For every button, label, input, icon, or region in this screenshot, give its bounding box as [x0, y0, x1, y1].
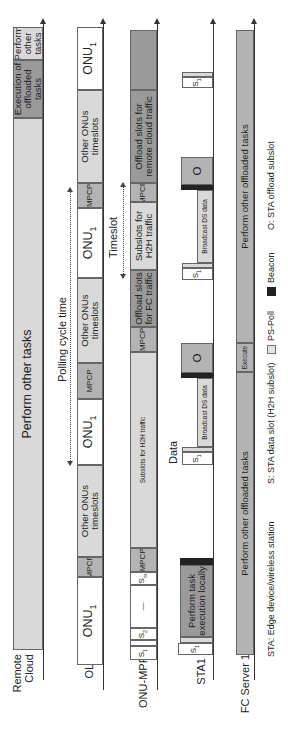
olt-mpcp: MPCP [77, 557, 103, 577]
s2-text: S2 [138, 630, 148, 638]
legend-beacon-label: Beacon [266, 252, 276, 283]
polling-cycle-label: Polling cycle time [56, 297, 68, 382]
row-label-onu-mpp: ONU-MPP [138, 656, 150, 712]
sta1-s1: S1 [182, 452, 213, 465]
s1-text: S1 [192, 454, 202, 462]
sta1-offload-subslot: O [181, 157, 213, 185]
onu-mpp-h2h-subslots: Subslots for H2H traffic [130, 202, 157, 270]
timeslot-arrow [123, 183, 124, 278]
ps-poll-swatch-icon [267, 345, 276, 354]
onu-mpp-dash: — [130, 585, 157, 628]
onu1-text: ONU1 [82, 416, 98, 449]
olt-other-onus: Other ONUs timeslots [77, 278, 103, 363]
onu-mpp-offload-remote: Offload slots for remote cloud traffic [130, 90, 157, 183]
sta1-ps-poll [182, 263, 213, 268]
olt-mpcp: MPCP [77, 363, 103, 399]
s1-text: S1 [190, 645, 200, 653]
olt-time-axis [103, 22, 104, 690]
remote-label-2: Cloud [23, 654, 35, 683]
legend-sta: STA: Edge device/wireless station [266, 522, 276, 657]
olt-onu1-slot: ONU1 [77, 208, 103, 278]
s1-text: S1 [192, 78, 202, 86]
olt-mpcp: MPCP [77, 183, 103, 208]
olt-onu1-slot: ONU1 [77, 27, 103, 90]
sta1-beacon [181, 185, 213, 190]
remote-cloud-time-axis [43, 22, 44, 680]
sta1-broadcast-ds: Broadcast DS data [197, 190, 213, 263]
sta1-s1: S1 [182, 268, 213, 280]
onu-mpp-s2: S2 [130, 628, 157, 640]
legend-o: O: STA offload subslot [266, 141, 276, 230]
remote-perform-other-tasks: Perform other tasks [13, 118, 43, 650]
legend-beacon: Beacon [266, 252, 276, 296]
sta1-beacon [180, 558, 213, 565]
onu-mpp-s-gap [130, 640, 157, 646]
onu1-text: ONU1 [82, 605, 98, 638]
remote-execution-offloaded: Execution of offloaded tasks [13, 60, 43, 118]
fc-execute: Execute [236, 343, 254, 372]
legend-ps-poll-label: PS-Poll [266, 311, 276, 341]
s1-text: S1 [138, 649, 148, 657]
row-label-fc-server: FC Server 1 [240, 654, 252, 724]
remote-perform-other-tasks-end: Perform other tasks [13, 27, 43, 60]
timeslot-label: Timeslot [107, 217, 119, 258]
timing-diagram: RemoteCloud OLT ONU-MPP STA1 FC Server 1… [0, 0, 288, 742]
legend-s: S: STA data slot (H2H subslot) [266, 363, 276, 484]
sta1-s1: S1 [178, 643, 213, 655]
sta1-s1: S1 [182, 77, 213, 88]
sta1-ps-poll [182, 447, 213, 452]
olt-onu1-slot: ONU1 [77, 577, 103, 665]
polling-cycle-arrow [70, 188, 71, 465]
fc-perform-other-offloaded: Perform other offloaded tasks [236, 372, 254, 655]
onu-mpp-mpcp: MPCP [130, 183, 157, 202]
sta1-broadcast-ds: Broadcast DS data [197, 378, 213, 447]
sta1-offload-subslot: O [181, 343, 213, 373]
olt-onu1-slot: ONU1 [77, 399, 103, 465]
onu-mpp-time-axis [157, 22, 158, 690]
sta1-local-execution: Perform task execution locally [180, 565, 213, 637]
olt-other-onus: Other ONUs timeslots [77, 465, 103, 557]
onu-mpp-offload-fc: Offload slots for FC traffic [130, 270, 157, 327]
onu-mpp-mpcp: MPCP [130, 548, 157, 572]
data-label: Data [167, 441, 179, 464]
sta1-ps-poll [182, 72, 213, 77]
fc-perform-other-offloaded: Perform other offloaded tasks [236, 30, 254, 343]
sta1-ps-poll [180, 637, 213, 643]
onu-mpp-mpcp: MPCP [130, 327, 157, 352]
sta1-beacon [181, 373, 213, 378]
row-label-remote-cloud: RemoteCloud [12, 654, 35, 694]
legend-ps-poll: PS-Poll [266, 311, 276, 354]
onu1-text: ONU1 [82, 227, 98, 260]
beacon-swatch-icon [267, 287, 276, 296]
remote-label-1: Remote [11, 654, 23, 693]
sta1-time-axis [213, 22, 214, 680]
s1-text: S1 [192, 270, 202, 278]
fc-server-time-axis [254, 22, 255, 680]
onu1-text: ONU1 [82, 42, 98, 75]
sm-text: Sm [138, 574, 148, 584]
olt-other-onus: Other ONUs timeslots [77, 90, 103, 183]
onu-mpp-h2h-subslots: Subslots for H2H traffic [130, 352, 157, 548]
onu-mpp-sm: Sm [130, 572, 157, 585]
row-label-sta1: STA1 [196, 658, 208, 694]
onu-mpp-tail [130, 30, 157, 90]
onu-mpp-s1: S1 [130, 646, 157, 660]
